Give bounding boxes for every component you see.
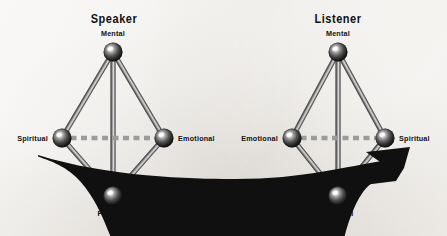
node-listener-spiritual[interactable] [376, 129, 395, 148]
node-speaker-emotional[interactable] [155, 129, 174, 148]
node-label-listener-spiritual: Spiritual [399, 135, 430, 143]
panel-title-listener: Listener [314, 13, 361, 26]
panel-title-speaker: Speaker [91, 13, 138, 26]
flow-arrow-layer [38, 147, 410, 236]
node-sphere-rim [329, 43, 348, 62]
rod-shaft [64, 57, 112, 133]
diagram-canvas: SpeakerMentalSpiritualEmotionalPhysicalL… [0, 0, 447, 236]
node-label-listener-emotional: Emotional [241, 135, 278, 143]
node-sphere-rim [53, 129, 72, 148]
node-label-listener-physical: Physical [322, 210, 353, 218]
node-speaker-physical[interactable] [104, 187, 123, 206]
node-sphere-rim [376, 129, 395, 148]
node-label-speaker-physical: Physical [97, 210, 128, 218]
node-speaker-spiritual[interactable] [53, 129, 72, 148]
node-sphere-rim [104, 187, 123, 206]
rod-speaker-mental-physical [111, 59, 115, 189]
node-sphere-rim [283, 129, 302, 148]
rod-shaft [115, 57, 163, 133]
rod-shaft [293, 57, 336, 133]
node-listener-emotional[interactable] [283, 129, 302, 148]
rod-shaft [339, 57, 383, 133]
node-sphere-rim [155, 129, 174, 148]
diagram-graphics [0, 0, 447, 236]
node-sphere-rim [329, 187, 348, 206]
node-listener-physical[interactable] [329, 187, 348, 206]
rod-listener-mental-emotional [293, 57, 336, 133]
node-label-speaker-spiritual: Spiritual [17, 135, 48, 143]
rod-listener-mental-spiritual [339, 57, 383, 133]
rod-speaker-mental-emotional [115, 57, 163, 133]
node-label-listener-mental: Mental [326, 30, 350, 38]
rod-speaker-mental-spiritual [64, 57, 112, 133]
node-label-speaker-mental: Mental [101, 30, 125, 38]
node-sphere-rim [104, 43, 123, 62]
rod-shaft [111, 59, 115, 189]
node-speaker-mental[interactable] [104, 43, 123, 62]
node-listener-mental[interactable] [329, 43, 348, 62]
node-label-speaker-emotional: Emotional [178, 135, 215, 143]
